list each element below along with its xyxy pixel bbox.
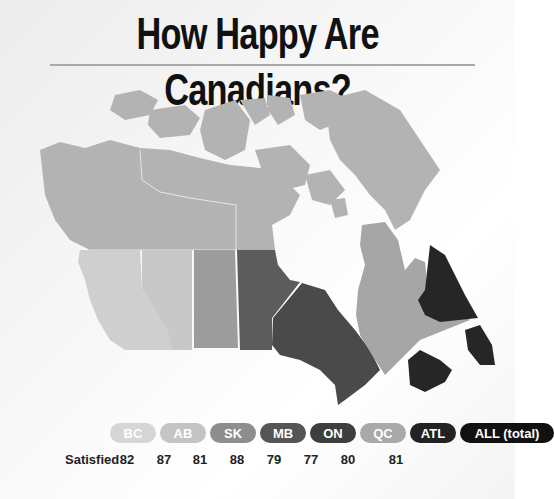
legend-pill-all: ALL (total): [460, 423, 554, 443]
legend-pill-on: ON: [310, 423, 356, 443]
value-on: 79: [267, 452, 281, 467]
legend-pill-mb: MB: [260, 423, 306, 443]
value-ab: 87: [157, 452, 171, 467]
value-qc: 77: [304, 452, 318, 467]
value-atl: 80: [341, 452, 355, 467]
legend: BC AB SK MB ON QC ATL ALL (total): [110, 423, 554, 443]
region-sk: [194, 250, 238, 348]
values-row: Satisfied 82 87 81 88 79 77 80 81: [0, 452, 515, 472]
legend-pill-qc: QC: [360, 423, 406, 443]
legend-pill-bc: BC: [110, 423, 156, 443]
legend-pill-sk: SK: [210, 423, 256, 443]
value-bc: 82: [120, 452, 134, 467]
legend-pill-atl: ATL: [410, 423, 456, 443]
legend-pill-ab: AB: [160, 423, 206, 443]
value-all: 81: [389, 452, 403, 467]
row-label: Satisfied: [65, 452, 119, 467]
value-mb: 88: [230, 452, 244, 467]
value-sk: 81: [193, 452, 207, 467]
